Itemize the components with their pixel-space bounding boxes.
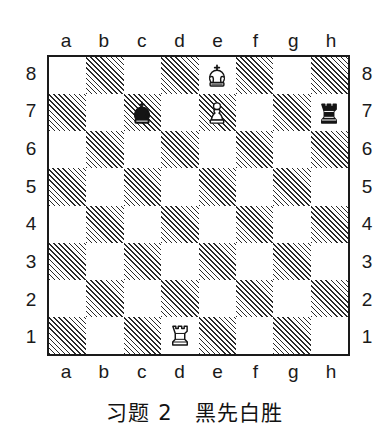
- board-square-a6: [49, 131, 86, 168]
- board-square-f1: [236, 317, 273, 354]
- board-square-a7: [49, 94, 86, 131]
- board-square-h4: [311, 206, 348, 243]
- board-square-a2: [49, 280, 86, 317]
- white-rook-icon: [161, 317, 198, 354]
- rank-label-6-right: 6: [354, 130, 380, 168]
- board-square-f7: [236, 94, 273, 131]
- board-square-b3: [86, 243, 123, 280]
- file-label-d: d: [161, 29, 199, 53]
- board-square-b2: [86, 280, 123, 317]
- board-square-e8: [199, 57, 236, 94]
- board-square-c3: [124, 243, 161, 280]
- file-label-g-bottom: g: [274, 360, 312, 384]
- rank-label-8-left: 8: [18, 55, 44, 93]
- board-square-g7: [273, 94, 310, 131]
- file-label-d-bottom: d: [161, 360, 199, 384]
- board-square-g1: [273, 317, 310, 354]
- board-square-f4: [236, 206, 273, 243]
- board-square-c1: [124, 317, 161, 354]
- board-square-d1: [161, 317, 198, 354]
- board-square-a3: [49, 243, 86, 280]
- board-square-h7: [311, 94, 348, 131]
- board-square-h5: [311, 168, 348, 205]
- file-label-a-bottom: a: [47, 360, 85, 384]
- board-square-g5: [273, 168, 310, 205]
- board-square-c6: [124, 131, 161, 168]
- board-square-g8: [273, 57, 310, 94]
- file-label-c: c: [123, 29, 161, 53]
- rank-label-2-right: 2: [354, 281, 380, 319]
- board-square-a4: [49, 206, 86, 243]
- board-square-g4: [273, 206, 310, 243]
- board-square-e4: [199, 206, 236, 243]
- white-pawn-icon: [199, 94, 236, 131]
- rank-labels-left: 8 7 6 5 4 3 2 1: [18, 55, 44, 356]
- board-square-h1: [311, 317, 348, 354]
- file-labels-bottom: a b c d e f g h: [47, 360, 350, 384]
- board-square-e6: [199, 131, 236, 168]
- black-rook-icon: [311, 94, 348, 131]
- diagram-caption: 习题 2 黑先白胜: [0, 396, 389, 426]
- board-square-d5: [161, 168, 198, 205]
- board-square-f6: [236, 131, 273, 168]
- board-square-a5: [49, 168, 86, 205]
- black-king-icon: [124, 94, 161, 131]
- board-square-d3: [161, 243, 198, 280]
- board-square-b5: [86, 168, 123, 205]
- rank-label-1-right: 1: [354, 318, 380, 356]
- board-square-e5: [199, 168, 236, 205]
- board-square-b1: [86, 317, 123, 354]
- board-square-b8: [86, 57, 123, 94]
- rank-label-8-right: 8: [354, 55, 380, 93]
- white-king-icon: [199, 57, 236, 94]
- board-square-e7: [199, 94, 236, 131]
- rank-label-7-right: 7: [354, 93, 380, 131]
- board-square-h8: [311, 57, 348, 94]
- board-square-h2: [311, 280, 348, 317]
- board-square-e1: [199, 317, 236, 354]
- rank-labels-right: 8 7 6 5 4 3 2 1: [354, 55, 380, 356]
- board-square-b7: [86, 94, 123, 131]
- board-square-c4: [124, 206, 161, 243]
- rank-label-4-right: 4: [354, 206, 380, 244]
- file-label-e-bottom: e: [199, 360, 237, 384]
- rank-label-5-right: 5: [354, 168, 380, 206]
- board-square-h6: [311, 131, 348, 168]
- file-label-f: f: [236, 29, 274, 53]
- board-square-f8: [236, 57, 273, 94]
- board-square-h3: [311, 243, 348, 280]
- file-labels-top: a b c d e f g h: [47, 29, 350, 53]
- rank-label-3-right: 3: [354, 243, 380, 281]
- board-square-d6: [161, 131, 198, 168]
- rank-label-2-left: 2: [18, 281, 44, 319]
- chessboard-grid: [49, 57, 348, 354]
- board-square-g2: [273, 280, 310, 317]
- board-square-d8: [161, 57, 198, 94]
- board-square-c5: [124, 168, 161, 205]
- board-square-g6: [273, 131, 310, 168]
- rank-label-3-left: 3: [18, 243, 44, 281]
- board-square-d4: [161, 206, 198, 243]
- board-square-c8: [124, 57, 161, 94]
- file-label-h-bottom: h: [312, 360, 350, 384]
- file-label-a: a: [47, 29, 85, 53]
- board-square-f2: [236, 280, 273, 317]
- file-label-b: b: [85, 29, 123, 53]
- board-square-c2: [124, 280, 161, 317]
- board-square-d7: [161, 94, 198, 131]
- chess-diagram: a b c d e f g h 8 7 6 5 4 3 2 1 8 7 6 5 …: [0, 0, 389, 437]
- rank-label-1-left: 1: [18, 318, 44, 356]
- rank-label-7-left: 7: [18, 93, 44, 131]
- board-square-e3: [199, 243, 236, 280]
- rank-label-6-left: 6: [18, 130, 44, 168]
- board-square-a8: [49, 57, 86, 94]
- board-square-f3: [236, 243, 273, 280]
- file-label-b-bottom: b: [85, 360, 123, 384]
- board-square-e2: [199, 280, 236, 317]
- board-square-g3: [273, 243, 310, 280]
- board-square-d2: [161, 280, 198, 317]
- file-label-h: h: [312, 29, 350, 53]
- board-square-c7: [124, 94, 161, 131]
- board-square-f5: [236, 168, 273, 205]
- file-label-c-bottom: c: [123, 360, 161, 384]
